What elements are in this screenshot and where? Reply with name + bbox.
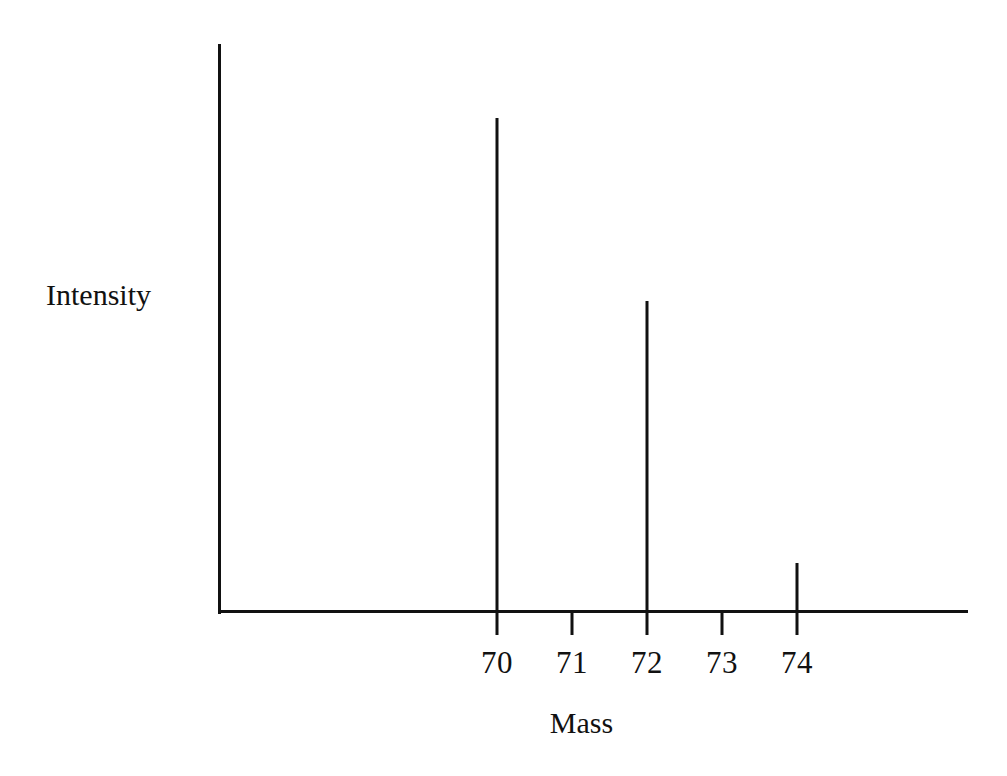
x-axis-tick bbox=[646, 613, 649, 635]
plot-area bbox=[218, 44, 968, 612]
x-axis-tick bbox=[721, 613, 724, 635]
y-axis-title: Intensity bbox=[46, 278, 151, 312]
x-axis-tick-label: 70 bbox=[457, 645, 537, 681]
x-axis-tick-label: 74 bbox=[757, 645, 837, 681]
spectrum-peak bbox=[496, 118, 499, 612]
x-axis-tick-label: 71 bbox=[532, 645, 612, 681]
x-axis-tick bbox=[571, 613, 574, 635]
x-axis-tick-label: 73 bbox=[682, 645, 762, 681]
x-axis-tick-label: 72 bbox=[607, 645, 687, 681]
x-axis-title: Mass bbox=[0, 706, 1007, 740]
x-axis-tick bbox=[496, 613, 499, 635]
x-axis-title-text: Mass bbox=[550, 706, 613, 739]
x-axis-tick bbox=[796, 613, 799, 635]
spectrum-peak bbox=[796, 563, 799, 612]
mass-spectrum-figure: 7071727374 Intensity Mass bbox=[0, 0, 1007, 776]
spectrum-peak bbox=[646, 301, 649, 612]
